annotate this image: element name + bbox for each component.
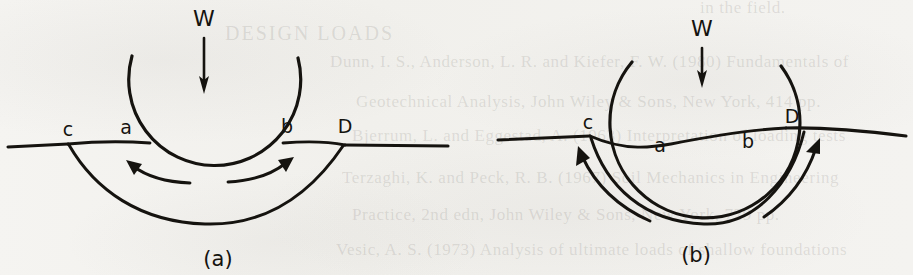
flow-arrow-left-shaft	[582, 156, 650, 221]
flow-arrow-left-head	[126, 160, 142, 175]
flow-arrow-left-head	[576, 146, 590, 166]
ground-surface-dip	[590, 128, 786, 147]
point-label-D: D	[338, 115, 353, 137]
ground-surface-dip-right	[283, 142, 345, 145]
slip-circle-arc	[129, 56, 301, 165]
outer-slip-surface	[69, 145, 343, 224]
point-label-D: D	[785, 105, 800, 127]
figure-b-caption: (b)	[681, 243, 711, 267]
figure-b: W c a b D (b)	[456, 0, 913, 275]
scanned-figure-page: in the field. DESIGN LOADS Dunn, I. S., …	[0, 0, 913, 275]
flow-arrow-right-shaft	[228, 163, 286, 182]
point-label-b: b	[281, 115, 293, 137]
point-label-c: c	[583, 111, 593, 133]
flow-arrow-right-head	[806, 138, 820, 154]
ground-surface-dip-left	[68, 142, 150, 144]
ground-surface-line-right	[345, 145, 448, 146]
point-label-c: c	[63, 118, 73, 140]
point-label-b: b	[742, 130, 754, 152]
load-label-W: W	[193, 6, 215, 31]
load-label-W: W	[691, 16, 713, 41]
ground-surface-line	[8, 144, 68, 147]
point-label-a: a	[120, 116, 132, 138]
figure-a: W c a b D (a)	[0, 0, 456, 275]
flow-arrow-right-head	[278, 157, 294, 172]
flow-arrow-right-shaft	[764, 148, 816, 217]
flow-arrow-left-shaft	[133, 166, 190, 183]
ground-surface-line	[498, 136, 590, 140]
point-label-a: a	[654, 134, 666, 156]
figure-a-caption: (a)	[203, 247, 232, 271]
